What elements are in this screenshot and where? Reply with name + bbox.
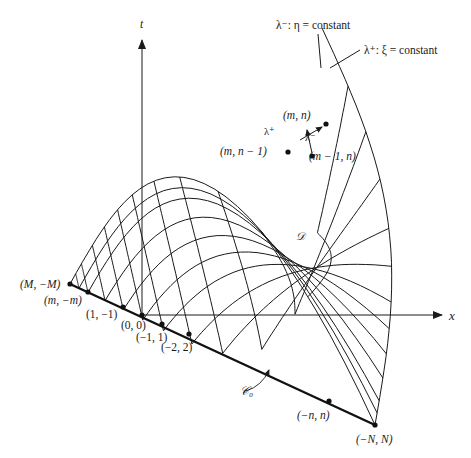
grid-point xyxy=(85,289,90,294)
grid-point xyxy=(323,121,328,126)
lambda-minus-extension xyxy=(318,34,321,68)
initial-curve-c0 xyxy=(70,284,375,425)
lambda-plus-curve xyxy=(164,264,392,330)
grid-point xyxy=(186,331,191,336)
grid-point xyxy=(326,398,331,403)
grid-point xyxy=(285,149,290,154)
point-label-minusn-n: (−n, n) xyxy=(297,410,330,422)
characteristic-grid xyxy=(70,28,392,425)
point-label-minus2-2: (−2, 2) xyxy=(161,342,192,354)
lambda-minus-arrow-label: λ⁻ xyxy=(305,133,316,144)
point-label-m-nminus1: (m, n − 1) xyxy=(220,146,267,158)
outer-right-arc xyxy=(322,28,392,425)
lambda-minus-curve xyxy=(308,233,331,297)
curve-c0-label: 𝒞₀ xyxy=(240,385,253,397)
lambda-minus-eta-label: λ⁻: η = constant xyxy=(276,20,350,32)
point-label-minusN-N: (−N, N) xyxy=(356,434,393,446)
characteristic-grid-diagram: t x λ⁻: η = constant λ⁺: ξ = constant λ⁺… xyxy=(0,0,471,458)
grid-point xyxy=(159,321,164,326)
grid-point xyxy=(67,281,72,286)
lambda-minus-curve xyxy=(261,231,295,314)
lambda-plus-curve xyxy=(105,217,383,378)
grid-point xyxy=(120,304,125,309)
diagram-canvas xyxy=(0,0,471,458)
point-label-0-0: (0, 0) xyxy=(121,320,146,332)
region-d-label: 𝒟 xyxy=(296,231,305,242)
outer-upper-arc xyxy=(70,177,375,425)
lambda-plus-xi-label: λ⁺: ξ = constant xyxy=(364,45,437,57)
x-axis-label: x xyxy=(449,309,455,322)
grid-point xyxy=(372,422,377,427)
lambda-plus-curve xyxy=(223,228,389,353)
point-label-M-minusM: (M, −M) xyxy=(20,279,60,291)
lambda-plus-arrow-label: λ⁺ xyxy=(264,127,275,138)
t-axis-label: t xyxy=(140,19,143,31)
point-label-1-minus1: (1, −1) xyxy=(86,309,117,321)
lambda-plus-extension xyxy=(330,50,360,68)
grid-points xyxy=(67,121,377,427)
lambda-plus-curve xyxy=(88,198,379,401)
point-label-mminus1-n: (m − 1, n) xyxy=(309,151,356,163)
grid-point xyxy=(139,312,144,317)
point-label-m-minusm: (m, −m) xyxy=(44,295,82,307)
lambda-minus-curve xyxy=(132,195,163,331)
point-label-m-n: (m, n) xyxy=(283,110,310,122)
